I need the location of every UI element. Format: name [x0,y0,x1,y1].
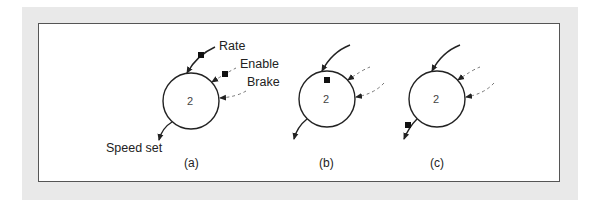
brake-arc [220,91,246,98]
speed-set-arc [159,122,172,140]
state-label: 2 [433,93,439,105]
brake-label: Brake [247,75,280,89]
panel-a: 2 Rate Enable Brake Speed set (a) [106,39,280,170]
rate-arc [322,45,350,71]
enable-label: Enable [240,57,279,71]
petri-net-diagram: 2 Rate Enable Brake Speed set (a) 2 (b) … [0,0,600,208]
panel-caption: (b) [319,156,334,170]
rate-label: Rate [219,39,245,53]
panel-caption: (c) [430,156,444,170]
panel-caption: (a) [184,156,199,170]
enable-arc [348,67,370,80]
panel-c: 2 (c) [404,45,494,170]
speed-set-arc [294,119,307,139]
panel-b: 2 (b) [294,45,384,170]
state-label: 2 [323,93,329,105]
token-icon [405,122,411,128]
rate-arc [432,45,460,71]
state-label: 2 [187,95,193,107]
speed-set-label: Speed set [106,141,163,155]
brake-arc [356,83,384,97]
token-icon [324,77,330,83]
enable-arc [458,67,480,80]
token-icon [198,52,204,58]
brake-arc [466,83,494,97]
rate-arc [187,47,215,73]
token-icon [222,71,228,77]
